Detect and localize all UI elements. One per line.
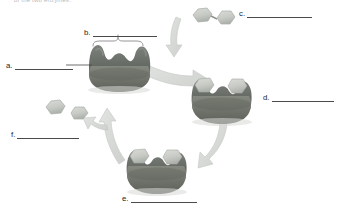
label-b: b. [84, 28, 157, 37]
label-e-key: e. [122, 195, 129, 203]
diagram-canvas [0, 0, 338, 209]
enzyme-free [88, 45, 150, 94]
label-d-blank[interactable] [272, 93, 334, 102]
label-d-key: d. [263, 94, 270, 102]
substrate-pair [193, 8, 235, 24]
label-c: c. [239, 9, 312, 18]
arrow-right [198, 123, 227, 168]
arrow-left [99, 108, 125, 164]
enzyme-cycle-figure: of the two enzymes. [0, 0, 338, 209]
label-c-key: c. [239, 10, 245, 18]
label-a-key: a. [6, 62, 13, 70]
label-a-blank[interactable] [15, 61, 73, 70]
label-b-key: b. [84, 29, 91, 37]
label-a: a. [6, 61, 73, 70]
enzyme-substrate-complex [192, 78, 252, 126]
product-pair [46, 100, 88, 119]
label-e: e. [122, 194, 197, 203]
label-c-blank[interactable] [247, 9, 312, 18]
label-b-blank[interactable] [93, 28, 157, 37]
label-f-key: f. [11, 131, 15, 139]
label-f: f. [11, 130, 79, 139]
label-d: d. [263, 93, 334, 102]
label-e-blank[interactable] [131, 194, 197, 203]
label-f-blank[interactable] [17, 130, 79, 139]
arrow-substrate-in [166, 17, 182, 57]
enzyme-product-complex [127, 149, 187, 196]
